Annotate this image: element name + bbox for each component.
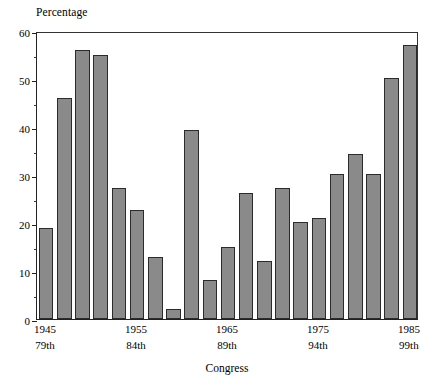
x-axis-year-label: 1985: [398, 322, 420, 337]
bar: [257, 261, 272, 319]
y-axis-tick-label: 0: [25, 316, 31, 327]
bar: [57, 98, 72, 319]
x-axis-congress-label: 94th: [307, 337, 329, 353]
x-axis-tick-group: 195584th: [125, 322, 147, 353]
bar: [203, 280, 218, 319]
x-axis-year-label: 1965: [216, 322, 238, 337]
y-axis-tick-label: 10: [19, 268, 30, 279]
bar: [130, 210, 145, 319]
x-axis-tick-group: 194579th: [34, 322, 56, 353]
bar: [330, 174, 345, 319]
y-axis-title: Percentage: [36, 6, 87, 18]
x-axis-tick-group: 198599th: [398, 322, 420, 353]
bar: [366, 174, 381, 319]
bar: [293, 222, 308, 319]
x-axis-congress-label: 84th: [125, 337, 147, 353]
y-axis-tick-label: 40: [19, 124, 30, 135]
bar: [384, 78, 399, 319]
x-axis-labels: 194579th195584th196589th197594th198599th: [36, 322, 418, 366]
bar: [221, 247, 236, 319]
bar: [348, 154, 363, 319]
x-axis-congress-label: 79th: [34, 337, 56, 353]
y-axis-tick-label: 60: [19, 28, 30, 39]
x-axis-year-label: 1945: [34, 322, 56, 337]
bar: [166, 309, 181, 319]
y-axis-tick-label: 30: [19, 172, 30, 183]
x-axis-tick-group: 196589th: [216, 322, 238, 353]
bar: [112, 188, 127, 319]
y-axis-tick-label: 20: [19, 220, 30, 231]
bar: [312, 218, 327, 319]
bar: [148, 257, 163, 319]
bar: [184, 130, 199, 319]
x-axis-year-label: 1955: [125, 322, 147, 337]
bar: [39, 228, 54, 319]
x-axis-title: Congress: [36, 362, 418, 374]
y-axis-tick-label: 50: [19, 76, 30, 87]
x-axis-congress-label: 89th: [216, 337, 238, 353]
bar: [93, 55, 108, 319]
bar: [239, 193, 254, 319]
plot-area: 0102030405060: [36, 32, 418, 320]
x-axis-congress-label: 99th: [398, 337, 420, 353]
bar-chart: Percentage 0102030405060 194579th195584t…: [0, 0, 425, 386]
bar: [275, 188, 290, 319]
bars-layer: [37, 33, 417, 319]
x-axis-tick-group: 197594th: [307, 322, 329, 353]
bar: [75, 50, 90, 319]
bar: [403, 45, 418, 319]
x-axis-year-label: 1975: [307, 322, 329, 337]
